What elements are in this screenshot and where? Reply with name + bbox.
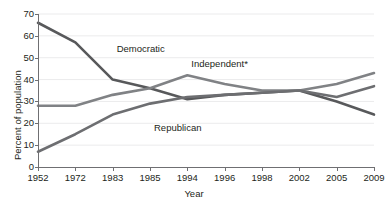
x-axis-title: Year (0, 188, 388, 199)
x-tick-label: 1994 (177, 173, 198, 183)
y-tick-mark (35, 101, 38, 102)
line-chart: 010203040506070 195219721983198519941996… (0, 0, 388, 207)
y-tick-label: 0 (12, 162, 34, 172)
y-tick-mark (35, 58, 38, 59)
y-axis-line (38, 14, 39, 168)
y-tick-mark (35, 123, 38, 124)
x-tick-label: 1998 (251, 173, 272, 183)
y-tick-label: 70 (12, 9, 34, 19)
x-tick-mark (150, 167, 151, 171)
y-tick-mark (35, 80, 38, 81)
x-tick-mark (337, 167, 338, 171)
y-tick-mark (35, 145, 38, 146)
x-tick-mark (75, 167, 76, 171)
series-line (38, 86, 374, 152)
x-tick-mark (299, 167, 300, 171)
y-tick-label: 50 (12, 53, 34, 63)
x-axis-line (38, 167, 374, 168)
x-tick-mark (113, 167, 114, 171)
x-tick-label: 1952 (27, 173, 48, 183)
y-tick-mark (35, 36, 38, 37)
series-inline-label: Democratic (117, 44, 165, 54)
series-inline-label: Independent* (191, 59, 248, 69)
x-tick-label: 1996 (214, 173, 235, 183)
y-axis-title: Percent of population (12, 70, 23, 160)
chart-svg (38, 14, 374, 167)
plot-area (38, 14, 374, 167)
x-tick-mark (262, 167, 263, 171)
y-tick-mark (35, 14, 38, 15)
x-tick-label: 1985 (139, 173, 160, 183)
x-tick-label: 2009 (363, 173, 384, 183)
series-inline-label: Republican (154, 123, 202, 133)
x-tick-mark (374, 167, 375, 171)
y-tick-label: 60 (12, 31, 34, 41)
x-tick-mark (187, 167, 188, 171)
x-tick-label: 2002 (289, 173, 310, 183)
x-tick-label: 1983 (102, 173, 123, 183)
x-tick-label: 1972 (65, 173, 86, 183)
series-line (38, 73, 374, 106)
x-tick-mark (38, 167, 39, 171)
x-tick-mark (225, 167, 226, 171)
x-tick-label: 2005 (326, 173, 347, 183)
